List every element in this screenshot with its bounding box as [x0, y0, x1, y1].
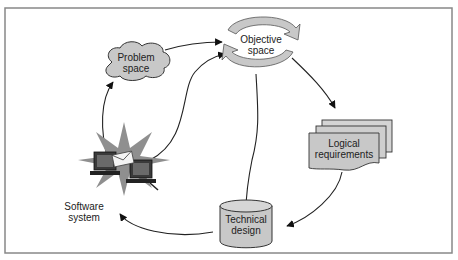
- technical-design-label-2: design: [231, 225, 260, 236]
- diagram-canvas: Problem space Objective space Logical re…: [0, 0, 458, 260]
- problem-space-node: Problem space: [106, 42, 170, 81]
- objective-space-label-2: space: [248, 45, 275, 56]
- logical-requirements-label-2: requirements: [315, 149, 373, 160]
- problem-space-label-2: space: [123, 63, 150, 74]
- technical-design-label-1: Technical: [225, 214, 267, 225]
- technical-design-node: Technical design: [220, 200, 272, 248]
- software-system-label-2: system: [68, 212, 100, 223]
- software-system-label-1: Software: [64, 201, 104, 212]
- problem-space-label-1: Problem: [117, 52, 154, 63]
- objective-space-label-1: Objective: [240, 34, 282, 45]
- logical-requirements-label-1: Logical: [328, 138, 360, 149]
